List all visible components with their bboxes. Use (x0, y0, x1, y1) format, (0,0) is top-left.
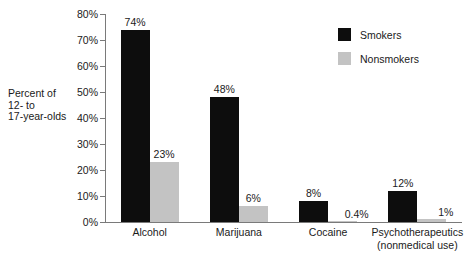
category-label-line-2: (nonmedical use) (372, 239, 464, 252)
x-axis-category-label: Psychotherapeutics(nonmedical use) (372, 226, 464, 251)
y-axis-tick-label: 40% (64, 112, 98, 124)
bar-group: 48%6% (194, 14, 283, 222)
category-label-line-1: Alcohol (132, 226, 166, 239)
bar-value-label: 8% (306, 187, 321, 199)
bar-value-label: 0.4% (345, 208, 369, 220)
bar-smokers (121, 30, 150, 222)
bar-chart: Percent of 12- to 17-year-olds 0%10%20%3… (0, 0, 470, 264)
bar-nonsmokers (150, 162, 179, 222)
legend: Smokers Nonsmokers (338, 28, 419, 76)
legend-swatch-smokers-icon (338, 28, 351, 41)
category-label-line-1: Marijuana (216, 226, 262, 239)
bar-value-label: 1% (438, 206, 453, 218)
bar-value-label: 48% (214, 83, 235, 95)
bar-value-label: 74% (125, 16, 146, 28)
legend-item-smokers: Smokers (338, 28, 419, 41)
y-axis-tick-mark (100, 222, 105, 223)
y-axis-tick-label: 60% (64, 60, 98, 72)
bar-smokers (210, 97, 239, 222)
legend-label-smokers: Smokers (360, 29, 401, 41)
x-axis-line (105, 222, 462, 223)
category-label-line-1: Cocaine (309, 226, 348, 239)
bar-smokers (299, 201, 328, 222)
bar-group: 74%23% (105, 14, 194, 222)
bar-value-label: 6% (246, 192, 261, 204)
y-axis-tick-label: 80% (64, 8, 98, 20)
y-axis-tick-label: 0% (64, 216, 98, 228)
legend-item-nonsmokers: Nonsmokers (338, 52, 419, 65)
y-axis-tick-label: 70% (64, 34, 98, 46)
bar-smokers (388, 191, 417, 222)
bar-nonsmokers (417, 219, 446, 222)
bar-value-label: 12% (392, 177, 413, 189)
legend-label-nonsmokers: Nonsmokers (360, 53, 419, 65)
y-axis-tick-label: 10% (64, 190, 98, 202)
x-axis-category-label: Alcohol (132, 226, 166, 239)
bar-nonsmokers (328, 221, 357, 223)
y-axis-tick-label: 50% (64, 86, 98, 98)
bar-value-label: 23% (154, 148, 175, 160)
category-label-line-1: Psychotherapeutics (372, 226, 464, 239)
legend-swatch-nonsmokers-icon (338, 52, 351, 65)
y-axis-tick-label: 20% (64, 164, 98, 176)
bar-nonsmokers (239, 206, 268, 222)
x-axis-category-label: Cocaine (309, 226, 348, 239)
x-axis-category-label: Marijuana (216, 226, 262, 239)
y-axis-tick-label: 30% (64, 138, 98, 150)
